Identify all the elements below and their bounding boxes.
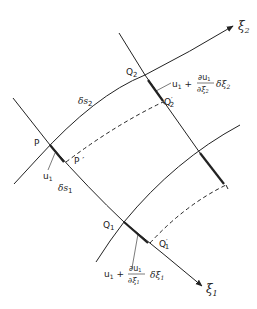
point-q2-prime-label: Q′2 [164,96,174,109]
u1-at-p-label: u1 [43,171,53,182]
u1-at-q2-expression: u1+ ∂u1 ∂ξ2 δξ2 [172,73,230,94]
deformed-edge-p-q2 [66,102,163,162]
leader-u1-q1 [132,234,138,268]
displacement-segment-far-corner [200,153,224,184]
u1-at-q1-expression: u1+ ∂u1 ∂ξ1 δξ1 [104,264,164,285]
xi2-curve-tail [14,158,38,184]
point-q2-label: Q2 [126,67,138,79]
svg-text:∂u1: ∂u1 [129,264,141,273]
xi1-coordinate-curve [13,98,202,286]
leader-u1-p [48,153,55,170]
svg-text:∂u1: ∂u1 [198,73,210,82]
curvilinear-displacement-diagram: ξ2 ξ1 P P ′ Q2 Q′2 Q1 Q′1 δs2 δs1 u1 u1+… [0,0,257,309]
deformed-edge-far-tick [226,185,228,189]
xi2-curve-through-q1 [96,125,240,262]
xi1-axis-label: ξ1 [206,282,218,298]
svg-text:∂ξ1: ∂ξ1 [128,276,140,285]
svg-text:∂ξ2: ∂ξ2 [197,85,209,94]
deformed-edge-q1-far [150,185,226,243]
svg-text:δξ1: δξ1 [150,270,164,281]
ds1-label: δs1 [58,183,73,195]
svg-text:δξ2: δξ2 [216,79,230,90]
point-q1-label: Q1 [103,220,115,232]
point-p-prime-label: P ′ [74,156,84,166]
point-q1-prime-label: Q′1 [159,238,169,251]
displacement-segment-q2 [148,80,163,101]
point-p-label: P [34,138,40,148]
xi2-axis-label: ξ2 [238,19,250,35]
xi1-curve-through-q2 [119,33,200,153]
leader-u1-q2 [156,83,171,91]
svg-text:u1+: u1+ [104,269,124,280]
ds2-label: δs2 [78,96,93,108]
displacement-segment-q1 [124,222,148,243]
svg-text:u1+: u1+ [172,79,192,90]
